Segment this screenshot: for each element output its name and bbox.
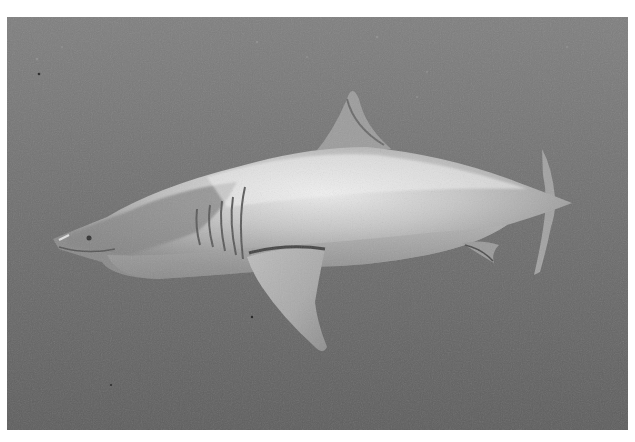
shark-photo: Grayscale photograph of a great white sh…: [7, 17, 628, 430]
shark-illustration: [7, 17, 628, 430]
film-grain: [7, 17, 628, 430]
